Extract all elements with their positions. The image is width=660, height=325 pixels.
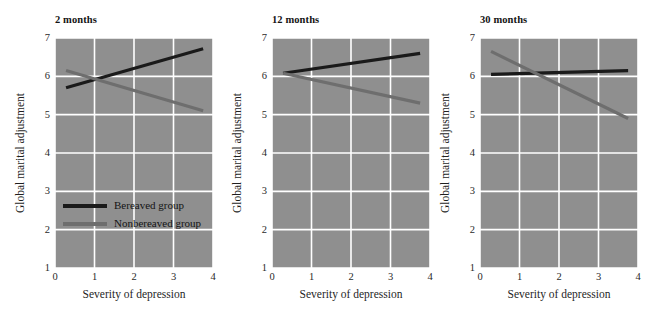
plot-area: 123456701234 [272,38,430,268]
panel-title: 12 months [272,14,319,25]
y-axis-tick-label: 5 [470,109,475,120]
y-axis-tick-label: 6 [262,71,267,82]
plot-canvas [480,38,638,268]
y-axis-tick-label: 7 [470,33,475,44]
x-axis-tick-label: 3 [171,272,176,283]
y-axis-tick-label: 7 [262,33,267,44]
x-axis-tick-label: 2 [131,272,136,283]
chart-panel: 30 months123456701234Severity of depress… [425,0,645,325]
y-axis-label: Global marital adjustment [437,38,453,268]
chart-panel: 2 months123456701234Bereaved groupNonber… [0,0,220,325]
x-axis-tick-label: 0 [269,272,274,283]
y-axis-tick-label: 2 [262,224,267,235]
y-axis-tick-label: 4 [470,148,475,159]
x-axis-tick-label: 2 [348,272,353,283]
x-axis-tick-label: 2 [556,272,561,283]
y-axis-label: Global marital adjustment [12,38,28,268]
x-axis-label: Severity of depression [55,288,213,300]
panel-title: 30 months [480,14,527,25]
x-axis-label: Severity of depression [272,288,430,300]
y-axis-label-text: Global marital adjustment [231,93,243,213]
legend-line-swatch [63,204,107,208]
plot-canvas [55,38,213,268]
chart-panel: 12 months123456701234Severity of depress… [217,0,437,325]
gridlines [55,38,213,268]
y-axis-label-text: Global marital adjustment [14,93,26,213]
x-axis-tick-label: 3 [596,272,601,283]
figure-panel-grid: 2 months123456701234Bereaved groupNonber… [0,0,660,325]
x-axis-tick-label: 1 [309,272,314,283]
y-axis-tick-label: 3 [45,186,50,197]
y-axis-label: Global marital adjustment [229,38,245,268]
x-axis-tick-label: 1 [92,272,97,283]
y-axis-tick-label: 4 [262,148,267,159]
plot-area: 123456701234 [480,38,638,268]
x-axis-tick-label: 0 [477,272,482,283]
y-axis-tick-label: 6 [470,71,475,82]
y-axis-tick-label: 2 [470,224,475,235]
y-axis-tick-label: 1 [45,263,50,274]
legend-label: Nonbereaved group [114,218,201,229]
y-axis-tick-label: 3 [470,186,475,197]
y-axis-tick-label: 1 [470,263,475,274]
x-axis-label: Severity of depression [480,288,638,300]
x-axis-tick-label: 0 [52,272,57,283]
legend-item: Bereaved group [63,200,201,211]
plot-area: 123456701234Bereaved groupNonbereaved gr… [55,38,213,268]
series-line [491,71,628,75]
y-axis-tick-label: 4 [45,148,50,159]
x-axis-tick-label: 4 [635,272,640,283]
plot-canvas [272,38,430,268]
y-axis-tick-label: 5 [45,109,50,120]
y-axis-tick-label: 7 [45,33,50,44]
y-axis-tick-label: 1 [262,263,267,274]
y-axis-tick-label: 6 [45,71,50,82]
y-axis-tick-label: 2 [45,224,50,235]
legend-line-swatch [63,222,107,226]
y-axis-tick-label: 3 [262,186,267,197]
y-axis-label-text: Global marital adjustment [439,93,451,213]
panel-title: 2 months [55,14,97,25]
legend-item: Nonbereaved group [63,218,201,229]
x-axis-tick-label: 4 [210,272,215,283]
x-axis-tick-label: 3 [388,272,393,283]
legend-label: Bereaved group [114,200,184,211]
y-axis-tick-label: 5 [262,109,267,120]
x-axis-tick-label: 1 [517,272,522,283]
chart-legend: Bereaved groupNonbereaved group [63,200,201,229]
